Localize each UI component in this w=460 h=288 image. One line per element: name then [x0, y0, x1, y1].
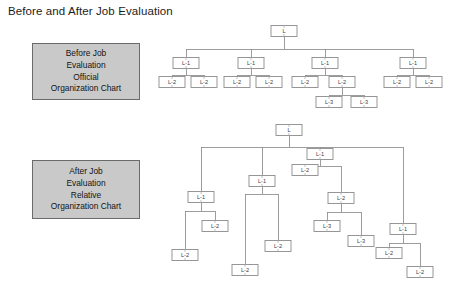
org-node-l-2[interactable]: L-2 — [202, 221, 228, 232]
edge-group — [305, 69, 342, 77]
org-chart-nodes: LL-1L-1L-1L-1L-2L-2L-2L-2L-2L-2L-2L-2L-3… — [159, 26, 442, 278]
edge-group — [397, 69, 429, 77]
node-label: L-2 — [338, 79, 346, 85]
edge-group — [237, 69, 269, 77]
node-label: L-2 — [265, 79, 273, 85]
org-node-l-2[interactable]: L-2 — [329, 77, 355, 88]
org-node-l-2[interactable]: L-2 — [416, 77, 442, 88]
node-label: L-2 — [301, 79, 309, 85]
node-label: L-3 — [325, 99, 333, 105]
org-node-l-1[interactable]: L-1 — [173, 58, 199, 69]
node-label: L-1 — [316, 151, 324, 157]
node-label: L-2 — [425, 79, 433, 85]
node-label: L-1 — [247, 60, 255, 66]
org-node-l[interactable]: L — [276, 125, 302, 136]
node-label: L-2 — [274, 243, 282, 249]
edge-group — [201, 136, 403, 224]
node-label: L — [282, 28, 285, 34]
org-node-l-2[interactable]: L-2 — [191, 77, 217, 88]
node-label: L-2 — [233, 79, 241, 85]
org-node-l-1[interactable]: L-1 — [312, 58, 338, 69]
edge-group — [186, 37, 413, 58]
org-node-l-2[interactable]: L-2 — [265, 241, 291, 252]
org-node-l-1[interactable]: L-1 — [400, 58, 426, 69]
org-node-l-2[interactable]: L-2 — [224, 77, 250, 88]
node-label: L-2 — [385, 250, 393, 256]
node-label: L-2 — [211, 223, 219, 229]
node-label: L-3 — [360, 99, 368, 105]
node-label: L-2 — [168, 79, 176, 85]
org-node-l-1[interactable]: L-1 — [390, 224, 416, 235]
node-label: L-1 — [399, 226, 407, 232]
node-label: L-2 — [241, 267, 249, 273]
org-node-l-2[interactable]: L-2 — [407, 267, 433, 278]
node-label: L — [287, 127, 290, 133]
node-label: L-1 — [258, 178, 266, 184]
node-label: L-3 — [323, 223, 331, 229]
org-node-l-2[interactable]: L-2 — [232, 265, 258, 276]
edge-group — [245, 187, 278, 265]
org-node-l-3[interactable]: L-3 — [316, 97, 342, 108]
org-node-l-1[interactable]: L-1 — [249, 176, 275, 187]
node-label: L-2 — [416, 269, 424, 275]
node-label: L-1 — [321, 60, 329, 66]
node-label: L-3 — [357, 238, 365, 244]
org-node-l-1[interactable]: L-1 — [238, 58, 264, 69]
org-node-l[interactable]: L — [271, 26, 297, 37]
org-node-l-3[interactable]: L-3 — [314, 221, 340, 232]
node-label: L-1 — [182, 60, 190, 66]
org-node-l-2[interactable]: L-2 — [292, 77, 318, 88]
node-label: L-2 — [337, 195, 345, 201]
node-label: L-1 — [197, 194, 205, 200]
org-node-l-2[interactable]: L-2 — [159, 77, 185, 88]
node-label: L-2 — [200, 79, 208, 85]
node-label: L-2 — [301, 167, 309, 173]
org-chart-canvas: LL-1L-1L-1L-1L-2L-2L-2L-2L-2L-2L-2L-2L-3… — [0, 0, 460, 288]
org-node-l-2[interactable]: L-2 — [328, 193, 354, 204]
org-node-l-2[interactable]: L-2 — [292, 165, 318, 176]
org-node-l-3[interactable]: L-3 — [351, 97, 377, 108]
node-label: L-2 — [393, 79, 401, 85]
org-node-l-1[interactable]: L-1 — [188, 192, 214, 203]
org-node-l-2[interactable]: L-2 — [384, 77, 410, 88]
node-label: L-1 — [409, 60, 417, 66]
org-node-l-3[interactable]: L-3 — [348, 236, 374, 247]
org-node-l-2[interactable]: L-2 — [376, 248, 402, 259]
org-node-l-2[interactable]: L-2 — [172, 250, 198, 261]
org-node-l-2[interactable]: L-2 — [256, 77, 282, 88]
org-node-l-1[interactable]: L-1 — [307, 149, 333, 160]
node-label: L-2 — [181, 252, 189, 258]
edge-group — [329, 88, 364, 97]
edge-group — [172, 69, 204, 77]
